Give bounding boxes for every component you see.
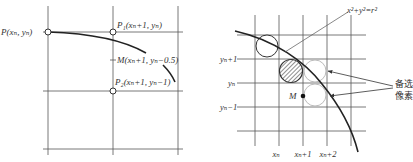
x-label-xn-plus-2: xₙ+2 (318, 149, 337, 159)
point-P1-marker (110, 29, 116, 35)
callout-arrow-lower (330, 88, 393, 96)
x-label-xn: xₙ (271, 149, 280, 159)
label-P1: P₁(xₙ+1, yₙ) (116, 20, 162, 30)
callout-label-line2: 像素 (395, 90, 413, 101)
pixel-circle-selected (280, 60, 303, 83)
left-diagram: P(xₙ, yₙ) P₁(xₙ+1, yₙ) M(xₙ+1, yₙ−0.5) P… (0, 6, 183, 155)
callout-arrow-upper (328, 71, 393, 86)
circle-arc-left (48, 32, 146, 53)
midpoint-M-dot (301, 94, 306, 99)
label-M: M(xₙ+1, yₙ−0.5) (116, 55, 178, 65)
equation-leader-line (285, 12, 348, 52)
y-label-yn-plus-1: yₙ+1 (219, 54, 237, 64)
callout-label-line1: 备选 (395, 78, 413, 89)
circle-arc-right (235, 31, 358, 152)
candidate-pixel-circle-upper (304, 60, 326, 82)
midpoint-circle-diagrams: P(xₙ, yₙ) P₁(xₙ+1, yₙ) M(xₙ+1, yₙ−0.5) P… (0, 0, 413, 162)
y-label-yn: yₙ (227, 78, 236, 88)
label-P2: P₂(xₙ+1, yₙ−1) (114, 77, 171, 87)
point-P2-marker (110, 88, 116, 94)
point-P-marker (45, 29, 51, 35)
right-diagram: M x²+y²=r² yₙ+1 yₙ yₙ−1 xₙ xₙ+1 xₙ+2 备选 … (219, 5, 413, 159)
right-grid (237, 15, 366, 146)
x-label-xn-plus-1: xₙ+1 (293, 149, 311, 159)
y-label-yn-minus-1: yₙ−1 (219, 102, 237, 112)
equation-label: x²+y²=r² (346, 5, 377, 15)
candidate-pixel-circle-lower (304, 84, 326, 106)
label-P: P(xₙ, yₙ) (0, 27, 32, 37)
label-M-right: M (288, 91, 297, 101)
